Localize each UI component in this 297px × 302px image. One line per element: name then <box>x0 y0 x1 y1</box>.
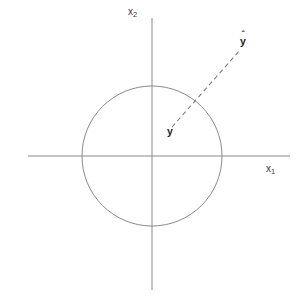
circumflex-icon: ˆ <box>241 30 244 39</box>
figure-canvas <box>0 0 297 302</box>
vector-y-label: y <box>167 126 173 137</box>
x2-axis-label-subscript: 2 <box>133 10 137 19</box>
y-hat-wrapper: ˆy <box>240 36 246 47</box>
dashed-connector-line <box>172 50 240 127</box>
vector-y-hat-label: ˆy <box>240 36 246 47</box>
x2-axis-label: x2 <box>128 7 137 17</box>
vector-projection-figure: x2 x1 y ˆy <box>0 0 297 302</box>
x1-axis-label-subscript: 1 <box>271 167 275 176</box>
x1-axis-label: x1 <box>266 164 275 174</box>
vector-y-label-text: y <box>167 125 173 137</box>
